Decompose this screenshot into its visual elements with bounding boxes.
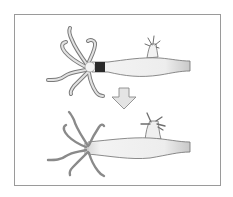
bottom-body xyxy=(88,138,190,159)
top-bud xyxy=(145,36,160,58)
top-hydra xyxy=(48,28,190,96)
top-marker-band xyxy=(95,62,105,72)
hydra-diagram xyxy=(0,0,233,197)
top-hypostome xyxy=(85,62,95,72)
down-arrow-icon xyxy=(112,88,136,109)
top-body xyxy=(92,58,190,77)
bottom-bud xyxy=(141,113,165,140)
bottom-hydra xyxy=(48,112,190,176)
